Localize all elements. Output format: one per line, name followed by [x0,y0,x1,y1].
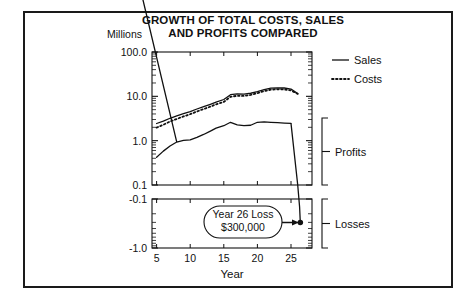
upper-bottom-xticks [157,181,291,185]
ytick-label-1: 1.0 [132,135,147,147]
ytick-label-neg-1-0: -1.0 [129,242,147,254]
legend-label-costs: Costs [354,73,383,85]
ytick-label-100: 100.0 [121,46,147,58]
lower-left-minor-ticks [152,214,156,246]
x-axis-title: Year [220,268,243,280]
growth-costs-sales-profits-chart: GROWTH OF TOTAL COSTS, SALES AND PROFITS… [0,0,475,306]
callout-line-1: Year 26 Loss [213,208,274,220]
legend-label-sales: Sales [354,54,382,66]
upper-top-xticks [157,52,291,56]
xtick-label-25: 25 [285,252,297,264]
lower-right-minor-ticks [308,214,312,246]
losses-bracket: Losses [322,199,370,248]
chart-title-line-1: GROWTH OF TOTAL COSTS, SALES [142,14,344,26]
profits-bracket: Profits [322,118,367,185]
legend: Sales Costs [332,54,383,85]
callout-line-2: $300,000 [221,221,265,233]
callout-arrow-head [292,219,299,225]
upper-right-major-ticks [306,52,312,185]
lower-bottom-xticks [157,244,291,248]
lower-top-xticks [157,199,291,203]
xtick-label-10: 10 [184,252,196,264]
xtick-label-20: 20 [252,252,264,264]
chart-title-line-2: AND PROFITS COMPARED [168,27,317,39]
y-axis-units-label: Millions [107,28,142,40]
upper-left-major-ticks [152,52,158,185]
loss-callout: Year 26 Loss $300,000 [204,206,299,238]
bracket-label-profits: Profits [335,146,367,158]
upper-left-minor-ticks [152,54,156,172]
ytick-label-neg-0-1: -0.1 [129,193,147,205]
chart-figure: GROWTH OF TOTAL COSTS, SALES AND PROFITS… [0,0,475,306]
upper-right-minor-ticks [308,54,312,172]
profit-crash-line [291,123,300,222]
ytick-label-0-1: 0.1 [132,179,147,191]
series-line-costs [157,89,298,127]
ytick-label-10: 10.0 [127,90,148,102]
xtick-label-5: 5 [154,252,160,264]
xtick-label-15: 15 [218,252,230,264]
bracket-label-losses: Losses [335,218,370,230]
